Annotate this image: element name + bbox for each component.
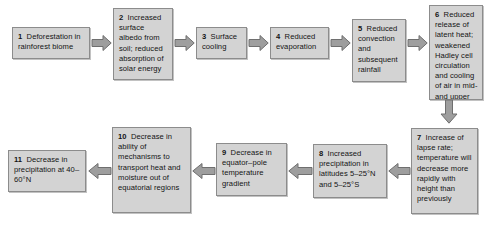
flow-node-1-text: Deforestation in rainforest biome bbox=[18, 32, 81, 51]
flow-node-5[interactable]: 5 Reduced convection and subsequent rain… bbox=[352, 19, 406, 82]
flow-node-6[interactable]: 6 Reduced release of latent heat; weaken… bbox=[429, 5, 483, 100]
flow-node-4-number: 4 bbox=[276, 32, 285, 41]
flow-node-2-number: 2 bbox=[119, 13, 128, 22]
flow-node-1[interactable]: 1 Deforestation in rainforest biome bbox=[12, 27, 90, 59]
flow-node-7-text: Increase of lapse rate; temperature will… bbox=[417, 133, 471, 203]
flow-node-3-number: 3 bbox=[202, 32, 211, 41]
flow-node-10-text: Decrease in ability of mechanisms to tra… bbox=[118, 132, 181, 192]
flow-arrow-10-to-11 bbox=[88, 163, 111, 179]
flow-node-4[interactable]: 4 Reduced evaporation bbox=[270, 27, 329, 59]
flow-node-1-number: 1 bbox=[18, 32, 27, 41]
flow-arrow-2-to-3 bbox=[175, 35, 195, 51]
flow-node-8-text: Increased precipitation in latitudes 5–2… bbox=[319, 149, 376, 189]
flow-node-6-number: 6 bbox=[435, 10, 444, 19]
flow-arrow-9-to-10 bbox=[192, 163, 215, 179]
flow-node-2[interactable]: 2 Increased surface albedo from soil; re… bbox=[113, 8, 173, 80]
flow-node-7[interactable]: 7 Increase of lapse rate; temperature wi… bbox=[411, 128, 478, 214]
flow-node-2-text: Increased surface albedo from soil; redu… bbox=[119, 13, 164, 73]
flow-node-3[interactable]: 3 Surface cooling bbox=[196, 27, 247, 59]
flow-node-9-number: 9 bbox=[222, 148, 231, 157]
flow-node-10-number: 10 bbox=[118, 132, 131, 141]
flow-arrow-7-to-8 bbox=[388, 163, 410, 179]
flow-node-8[interactable]: 8 Increased precipitation in latitudes 5… bbox=[313, 144, 387, 198]
flow-arrow-1-to-2 bbox=[92, 35, 112, 51]
flow-node-7-number: 7 bbox=[417, 133, 426, 142]
flow-node-6-text: Reduced release of latent heat; weakened… bbox=[435, 10, 477, 100]
flow-node-11[interactable]: 11 Decrease in precipitation at 40–60°N bbox=[8, 150, 86, 192]
flow-arrow-4-to-5 bbox=[331, 35, 351, 51]
flow-arrow-8-to-9 bbox=[288, 163, 312, 179]
flow-node-8-number: 8 bbox=[319, 149, 328, 158]
flow-node-9[interactable]: 9 Decrease in equator–pole temperature g… bbox=[216, 143, 287, 196]
flow-node-5-number: 5 bbox=[358, 24, 367, 33]
flow-arrow-3-to-4 bbox=[249, 35, 269, 51]
flow-arrow-5-to-6 bbox=[408, 35, 428, 51]
flow-node-11-number: 11 bbox=[14, 155, 26, 164]
flow-arrow-6-to-7 bbox=[441, 100, 459, 124]
flowchart-canvas: 1 Deforestation in rainforest biome 2 In… bbox=[0, 0, 487, 227]
flow-node-10[interactable]: 10 Decrease in ability of mechanisms to … bbox=[112, 127, 191, 213]
